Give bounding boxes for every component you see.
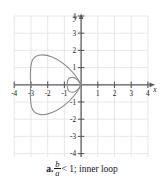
polar-graph-limacon: -4 -3 -2 -1 1 2 3 4 4 3 2 1 -1 -2 -3 -4 … <box>0 0 164 183</box>
fraction-denominator: a <box>54 168 60 178</box>
x-tick-label: 1 <box>96 90 100 98</box>
x-tick-label: -3 <box>28 90 34 98</box>
figure-caption: a.ba< 1; inner loop <box>0 160 164 179</box>
y-tick-label: 2 <box>72 47 76 55</box>
caption-label: a. <box>46 164 53 174</box>
y-tick-label: -3 <box>70 133 76 141</box>
x-tick-label: -2 <box>45 90 51 98</box>
caption-text: < 1; inner loop <box>62 164 118 174</box>
x-tick-label: 3 <box>129 90 133 98</box>
y-tick-label: -4 <box>70 150 76 158</box>
x-tick-label: 4 <box>146 90 150 98</box>
x-tick-label: -4 <box>11 90 17 98</box>
figure-limacon-inner-loop: -4 -3 -2 -1 1 2 3 4 4 3 2 1 -1 -2 -3 -4 … <box>0 0 164 183</box>
x-axis-label: x <box>152 85 157 94</box>
x-tick-label: -1 <box>61 90 67 98</box>
fraction-numerator: b <box>54 160 60 169</box>
fraction-b-over-a: ba <box>54 160 60 179</box>
y-tick-label: 3 <box>72 30 76 38</box>
x-axis <box>14 82 155 87</box>
y-tick-label: 1 <box>72 64 76 72</box>
x-tick-label: 2 <box>113 90 117 98</box>
y-tick-label: -2 <box>70 116 76 124</box>
y-axis-label: y <box>73 13 78 22</box>
